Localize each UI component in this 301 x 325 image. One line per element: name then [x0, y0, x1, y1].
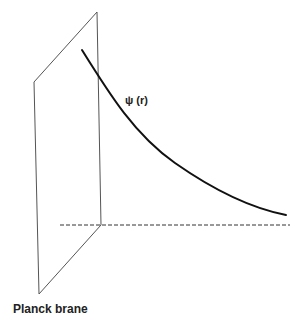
planck-brane-diagram: ψ (r) Planck brane: [0, 0, 301, 325]
curve-label: ψ (r): [125, 94, 148, 106]
brane-label: Planck brane: [13, 302, 88, 316]
background: [0, 0, 301, 325]
